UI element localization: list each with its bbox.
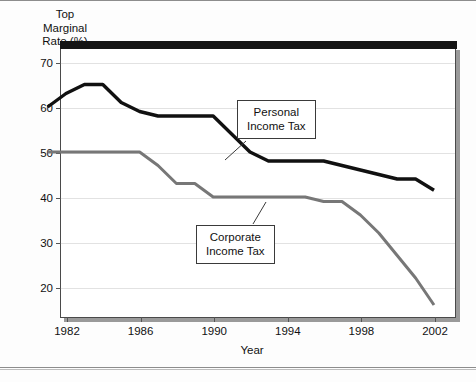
x-tick-label-1990: 1990 — [201, 325, 227, 337]
x-tick-label-1982: 1982 — [54, 325, 80, 337]
y-tick-label-30: 30 — [40, 237, 53, 249]
x-tick-label-1994: 1994 — [275, 325, 301, 337]
x-tick-label-1998: 1998 — [349, 325, 375, 337]
callout-personal-line-2: Income Tax — [247, 119, 306, 133]
x-axis-title: Year — [0, 344, 476, 356]
x-axis-title-text: Year — [240, 344, 263, 356]
page-rule-top — [0, 0, 476, 1]
x-tick-label-2002: 2002 — [422, 325, 448, 337]
series-layer — [60, 46, 456, 318]
y-axis-title-line-2: Marginal — [20, 22, 110, 36]
chart-figure: Top Marginal Rate (%) 203040506070198219… — [0, 0, 476, 382]
callout-corporate-income-tax: Corporate Income Tax — [196, 225, 275, 264]
y-axis-title-line-1: Top — [20, 8, 110, 22]
callout-corporate-line-2: Income Tax — [206, 244, 265, 258]
callout-personal-line-1: Personal — [247, 105, 306, 119]
y-tick-label-20: 20 — [40, 282, 53, 294]
y-tick-label-40: 40 — [40, 192, 53, 204]
y-tick-label-70: 70 — [40, 57, 53, 69]
page-rule-bottom-secondary — [0, 369, 476, 370]
callout-corporate-line-1: Corporate — [206, 230, 265, 244]
x-tick-label-1986: 1986 — [128, 325, 154, 337]
page-rule-bottom — [0, 367, 476, 368]
callout-personal-income-tax: Personal Income Tax — [237, 100, 316, 139]
